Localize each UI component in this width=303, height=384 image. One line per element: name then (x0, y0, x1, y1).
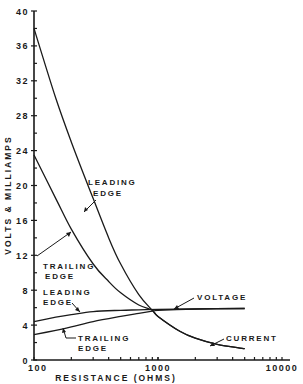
axis-lines (34, 11, 290, 360)
annotation-trailing-edge-current: TRAILING EDGE (37, 232, 95, 281)
y-tick-label: 28 (16, 111, 29, 121)
curve-voltage-trailing-edge (34, 309, 245, 335)
axes: 0481216202428323640100100010000 (16, 7, 298, 374)
x-tick-label: 1000 (145, 363, 171, 373)
svg-text:TRAILING: TRAILING (78, 334, 130, 343)
y-tick-label: 32 (16, 76, 29, 86)
svg-text:LEADING: LEADING (88, 178, 137, 187)
annotation-current: CURRENT (210, 334, 278, 346)
chart: 0481216202428323640100100010000 VOLTS & … (0, 0, 303, 384)
annotation-leading-edge-voltage: LEADING EDGE (43, 288, 92, 312)
pointer-arrow-icon (37, 232, 71, 256)
y-tick-label: 8 (22, 286, 29, 296)
x-tick-label: 10000 (266, 363, 299, 373)
x-tick-label: 100 (28, 363, 48, 373)
y-tick-label: 4 (22, 321, 29, 331)
y-axis-title: VOLTS & MILLIAMPS (3, 135, 13, 254)
y-tick-label: 40 (16, 7, 29, 17)
svg-text:EDGE: EDGE (45, 272, 75, 281)
curve-voltage-leading-edge (34, 309, 245, 322)
svg-text:CURRENT: CURRENT (226, 334, 278, 343)
svg-text:VOLTAGE: VOLTAGE (197, 293, 247, 302)
annotation-trailing-edge-voltage: TRAILING EDGE (62, 328, 130, 353)
svg-text:LEADING: LEADING (43, 288, 92, 297)
annotation-voltage: VOLTAGE (174, 293, 247, 309)
svg-text:EDGE: EDGE (78, 344, 108, 353)
svg-text:TRAILING: TRAILING (43, 262, 95, 271)
y-tick-label: 20 (16, 181, 29, 191)
y-tick-label: 12 (16, 251, 29, 261)
y-tick-label: 24 (16, 146, 29, 156)
y-tick-label: 36 (16, 41, 29, 51)
curve-current-trailing-edge (34, 155, 245, 349)
pointer-arrow-icon (63, 328, 76, 338)
svg-text:EDGE: EDGE (43, 298, 73, 307)
y-tick-label: 16 (16, 216, 29, 226)
svg-text:EDGE: EDGE (93, 189, 123, 198)
x-axis-title: RESISTANCE (OHMS) (55, 373, 177, 383)
